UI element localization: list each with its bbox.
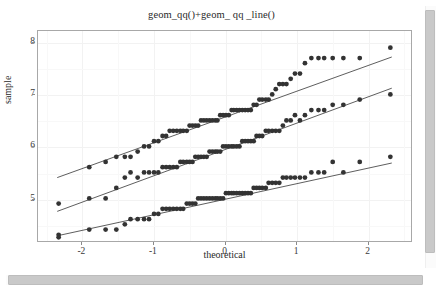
qq-data-point <box>293 71 298 76</box>
data-layer <box>38 31 411 241</box>
qq-data-point <box>270 92 275 97</box>
y-axis-ticks: 5678 <box>17 30 35 242</box>
y-tick-label: 5 <box>19 193 35 203</box>
qq-data-point <box>135 149 140 154</box>
qq-data-point <box>190 160 195 165</box>
qq-data-point <box>248 191 253 196</box>
qq-data-point <box>147 144 152 149</box>
qq-data-point <box>357 56 362 61</box>
qq-data-point <box>273 87 278 92</box>
horizontal-scrollbar-thumb[interactable] <box>8 275 423 285</box>
qq-data-point <box>135 175 140 180</box>
qq-data-point <box>288 175 293 180</box>
y-tick-mark <box>32 94 35 95</box>
x-tick-mark <box>153 242 154 245</box>
qq-data-point <box>237 144 242 149</box>
qq-data-point <box>196 123 201 128</box>
qq-reference-line <box>57 57 392 178</box>
qq-data-point <box>103 160 108 165</box>
qq-data-point <box>128 217 133 222</box>
vertical-scrollbar-thumb[interactable] <box>425 10 435 253</box>
qq-data-point <box>87 165 92 170</box>
qq-data-point <box>330 56 335 61</box>
x-tick-mark <box>368 242 369 245</box>
qq-data-point <box>298 175 303 180</box>
qq-data-point <box>293 113 298 118</box>
qq-data-point <box>388 92 393 97</box>
qq-data-point <box>122 154 127 159</box>
y-tick-label: 6 <box>19 140 35 150</box>
qq-data-point <box>184 128 189 133</box>
page-root: geom_qq()+geom_ qq _line() sample 5678 -… <box>0 0 438 288</box>
x-axis-label: theoretical <box>37 249 412 260</box>
qq-data-point <box>128 170 133 175</box>
qq-data-point <box>277 180 282 185</box>
y-tick-mark <box>32 199 35 200</box>
x-tick-mark <box>81 242 82 245</box>
qq-data-point <box>388 154 393 159</box>
y-tick-label: 8 <box>19 36 35 46</box>
y-tick-mark <box>32 42 35 43</box>
qq-data-point <box>215 118 220 123</box>
qq-data-point <box>284 175 289 180</box>
qq-data-point <box>142 217 147 222</box>
x-tick-mark <box>225 242 226 245</box>
vertical-scrollbar[interactable] <box>423 0 438 273</box>
qq-data-point <box>152 170 157 175</box>
y-axis-label: sample <box>2 76 13 104</box>
qq-data-point <box>156 212 161 217</box>
qq-data-point <box>248 108 253 113</box>
qq-data-point <box>330 160 335 165</box>
qq-data-point <box>114 186 119 191</box>
qq-data-point <box>341 56 346 61</box>
qq-data-point <box>309 56 314 61</box>
document-viewport: geom_qq()+geom_ qq _line() sample 5678 -… <box>0 0 423 270</box>
qq-data-point <box>277 128 282 133</box>
qq-data-point <box>122 222 127 227</box>
qq-data-point <box>341 102 346 107</box>
qq-data-point <box>122 175 127 180</box>
qq-data-point <box>288 118 293 123</box>
qq-data-point <box>147 217 152 222</box>
qq-data-point <box>341 170 346 175</box>
qq-data-point <box>263 186 268 191</box>
qq-data-point <box>103 196 108 201</box>
y-tick-mark <box>32 146 35 147</box>
qq-data-point <box>152 212 157 217</box>
qq-data-point <box>316 56 321 61</box>
qq-data-point <box>293 175 298 180</box>
qq-data-point <box>303 175 308 180</box>
qq-data-point <box>103 227 108 232</box>
qq-data-point <box>388 45 393 50</box>
horizontal-scrollbar[interactable] <box>0 273 438 288</box>
qq-data-point <box>87 227 92 232</box>
qq-data-point <box>254 102 259 107</box>
qq-data-point <box>181 206 186 211</box>
qq-data-point <box>221 196 226 201</box>
qq-data-point <box>298 71 303 76</box>
qq-data-point <box>128 154 133 159</box>
qq-data-point <box>303 113 308 118</box>
qq-data-point <box>87 196 92 201</box>
qq-data-point <box>204 154 209 159</box>
qq-data-point <box>316 170 321 175</box>
qq-data-point <box>298 118 303 123</box>
qq-data-point <box>56 235 61 240</box>
qq-data-point <box>357 160 362 165</box>
qq-data-point <box>309 108 314 113</box>
qq-data-point <box>322 108 327 113</box>
qq-data-point <box>284 118 289 123</box>
qq-data-point <box>156 139 161 144</box>
scrollbar-corner <box>423 273 438 288</box>
qq-data-point <box>303 61 308 66</box>
qq-data-point <box>288 76 293 81</box>
qq-data-point <box>309 170 314 175</box>
qq-data-point <box>218 149 223 154</box>
plot-panel <box>37 30 412 242</box>
page-title: geom_qq()+geom_ qq _line() <box>0 9 423 20</box>
qq-data-point <box>251 139 256 144</box>
qq-data-point <box>114 227 119 232</box>
qq-data-point <box>284 82 289 87</box>
qq-data-point <box>142 144 147 149</box>
qq-data-point <box>316 108 321 113</box>
